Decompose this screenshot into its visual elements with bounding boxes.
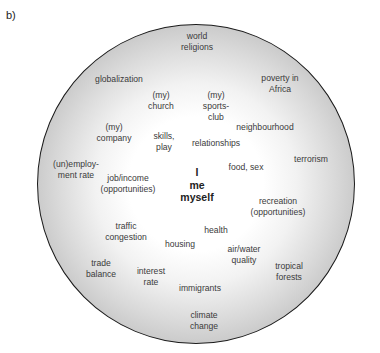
term-immigrants: immigrants <box>179 283 221 294</box>
panel-label: b) <box>6 9 16 21</box>
term-trade-balance: trade balance <box>86 258 116 280</box>
term-poverty-in-africa: poverty in Africa <box>261 73 298 95</box>
term-skills-play: skills, play <box>153 131 174 153</box>
term-air-water-quality: air/water quality <box>228 244 261 266</box>
term-climate-change: climate change <box>190 310 218 332</box>
term-relationships: relationships <box>192 138 240 149</box>
term-world-religions: world religions <box>181 31 213 53</box>
term-job-income: job/income (opportunities) <box>101 173 156 195</box>
term-tropical-forests: tropical forests <box>275 261 303 283</box>
term-my-sports-club: (my) sports- club <box>203 90 229 123</box>
term-food-sex: food, sex <box>229 162 264 173</box>
term-my-company: (my) company <box>97 122 132 144</box>
term-housing: housing <box>165 239 195 250</box>
term-unemployment-rate: (un)employ- ment rate <box>53 159 99 181</box>
term-health: health <box>204 225 227 236</box>
term-recreation: recreation (opportunities) <box>251 196 306 218</box>
term-interest-rate: interest rate <box>137 266 165 288</box>
term-terrorism: terrorism <box>294 154 328 165</box>
term-traffic-congestion: traffic congestion <box>105 221 147 243</box>
term-globalization: globalization <box>95 74 143 85</box>
center-self-label: I me myself <box>180 166 213 204</box>
term-neighbourhood: neighbourhood <box>236 122 293 133</box>
term-my-church: (my) church <box>148 90 174 112</box>
